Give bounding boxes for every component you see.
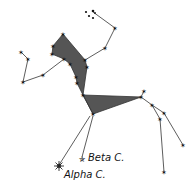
- svg-text:✶: ✶: [112, 25, 118, 33]
- svg-text:✶: ✶: [102, 45, 108, 53]
- svg-text:✶: ✶: [157, 116, 163, 124]
- svg-text:✶: ✶: [40, 72, 46, 80]
- constellation-diagram: ✶✶✶ ✶✶✶ ✶✶✶ ✶✶✶ ✶✶✶ ✶✶✶ ✶✶✶ ✶✶✶ ✯ Beta C…: [0, 0, 193, 194]
- svg-text:✶: ✶: [60, 31, 66, 39]
- svg-text:✯: ✯: [79, 155, 86, 164]
- constellation-figure: ✶✶✶ ✶✶✶ ✶✶✶ ✶✶✶ ✶✶✶ ✶✶✶ ✶✶✶ ✶✶✶ ✯: [0, 0, 193, 194]
- svg-text:✶: ✶: [149, 102, 155, 110]
- svg-text:✶: ✶: [49, 51, 55, 59]
- svg-text:✶: ✶: [84, 64, 90, 72]
- svg-text:✶: ✶: [141, 88, 147, 96]
- svg-text:✶: ✶: [80, 92, 86, 100]
- svg-text:✶: ✶: [67, 61, 73, 69]
- beta-centauri-star: ✯: [79, 155, 86, 164]
- svg-text:✶: ✶: [20, 79, 26, 87]
- body-shape: [52, 34, 141, 114]
- svg-text:✶: ✶: [50, 43, 56, 51]
- beta-centauri-label: Beta C.: [88, 152, 124, 163]
- svg-text:✶: ✶: [18, 49, 24, 57]
- alpha-centauri-star: [54, 161, 64, 171]
- svg-text:✶: ✶: [161, 169, 167, 177]
- svg-text:✶: ✶: [25, 56, 31, 64]
- svg-text:✶: ✶: [90, 111, 96, 119]
- svg-text:✶: ✶: [180, 142, 186, 150]
- alpha-centauri-label: Alpha C.: [64, 169, 106, 180]
- constellation-lines: [21, 12, 183, 172]
- svg-text:✶: ✶: [74, 80, 80, 88]
